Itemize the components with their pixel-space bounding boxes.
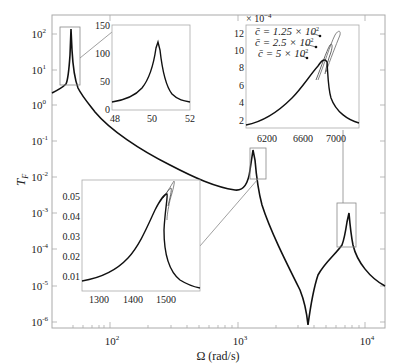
svg-text:TF: TF (13, 174, 30, 186)
svg-text:0.01: 0.01 (63, 271, 81, 282)
xtick-label: 103 (233, 334, 248, 347)
inset-third-resonance: 12 10 8 6 4 2 6200 6600 7000 × 10−4 c̄ =… (234, 12, 359, 144)
svg-text:100: 100 (95, 48, 110, 59)
ytick-label: 10-1 (31, 134, 48, 147)
xtick-label: 104 (360, 334, 375, 347)
svg-text:8: 8 (239, 62, 244, 73)
svg-text:10: 10 (234, 45, 244, 56)
svg-text:48: 48 (110, 113, 120, 124)
svg-text:50: 50 (147, 113, 157, 124)
ytick-label: 101 (32, 63, 47, 76)
svg-text:0.03: 0.03 (63, 231, 81, 242)
chart: 102 101 100 10-1 10-2 10-3 10-4 10-5 10-… (0, 0, 402, 364)
svg-text:4: 4 (239, 97, 244, 108)
y-axis-label: TF (13, 174, 30, 186)
ytick-label: 10-3 (31, 206, 48, 219)
svg-text:0.02: 0.02 (63, 251, 81, 262)
ytick-label: 10-5 (31, 279, 48, 292)
svg-text:2: 2 (239, 115, 244, 126)
x-axis-label: Ω (rad/s) (196, 349, 239, 363)
svg-text:7000: 7000 (326, 133, 346, 144)
svg-text:12: 12 (234, 28, 244, 39)
svg-text:150: 150 (95, 20, 110, 31)
ytick-label: 100 (32, 98, 47, 111)
svg-text:1300: 1300 (89, 294, 109, 305)
svg-text:50: 50 (100, 76, 110, 87)
ytick-label: 10-4 (31, 242, 48, 255)
ytick-label: 10-2 (31, 170, 48, 183)
x-tick-labels: 102 103 104 (105, 334, 375, 347)
svg-text:6600: 6600 (293, 133, 313, 144)
svg-text:52: 52 (185, 113, 195, 124)
svg-text:6200: 6200 (257, 133, 277, 144)
inset-second-resonance: 0.05 0.04 0.03 0.02 0.01 1300 1400 1500 (63, 180, 201, 305)
svg-text:0.04: 0.04 (63, 211, 81, 222)
y-tick-labels: 102 101 100 10-1 10-2 10-3 10-4 10-5 10-… (31, 27, 48, 328)
svg-text:1500: 1500 (156, 294, 176, 305)
ytick-label: 10-6 (31, 315, 48, 328)
legend-entry: c̄ = 5 × 102 (258, 47, 308, 59)
svg-text:0.05: 0.05 (63, 191, 81, 202)
xtick-label: 102 (105, 334, 120, 347)
svg-text:1400: 1400 (123, 294, 143, 305)
svg-text:6: 6 (239, 80, 244, 91)
ytick-label: 102 (32, 27, 47, 40)
